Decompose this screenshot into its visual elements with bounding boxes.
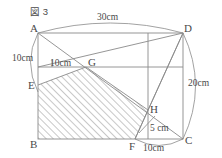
point-label-e: E bbox=[28, 80, 35, 91]
geometry-figure: 図 3 A D E G H F B C 30cm 20cm 10cm 10cm … bbox=[0, 0, 222, 158]
dimension-right-20cm: 20cm bbox=[188, 79, 209, 89]
dimension-left-10cm: 10cm bbox=[12, 54, 33, 64]
point-label-d: D bbox=[184, 23, 192, 34]
point-label-b: B bbox=[30, 139, 37, 150]
point-label-f: F bbox=[129, 141, 135, 152]
point-label-h: H bbox=[150, 104, 158, 115]
dimension-top-30cm: 30cm bbox=[97, 13, 118, 23]
point-label-c: C bbox=[185, 135, 192, 146]
point-label-g: G bbox=[88, 57, 96, 68]
hatched-region bbox=[38, 67, 148, 139]
arc-top-30cm bbox=[38, 23, 183, 33]
dimension-bottom-10cm: 10cm bbox=[143, 144, 164, 154]
dimension-inner-10cm: 10cm bbox=[50, 59, 71, 69]
figure-caption: 図 3 bbox=[30, 7, 48, 17]
point-label-a: A bbox=[30, 23, 38, 34]
dimension-h-drop-5cm: 5 cm bbox=[150, 124, 169, 134]
